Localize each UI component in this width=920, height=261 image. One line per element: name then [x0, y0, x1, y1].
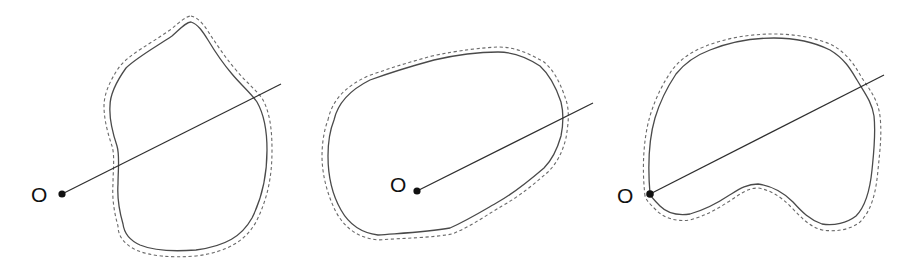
region-dashed-boundary: [104, 16, 272, 257]
panel-3: O: [617, 34, 884, 231]
origin-label: O: [617, 184, 633, 207]
origin-point: [58, 190, 65, 197]
region-boundary: [649, 38, 875, 225]
origin-label: O: [390, 173, 406, 196]
ray: [62, 84, 281, 194]
origin-point: [646, 190, 654, 198]
region-boundary: [328, 52, 563, 235]
origin-point: [413, 187, 420, 194]
panel-2: O: [322, 47, 593, 240]
diagram-figure: O O O: [0, 0, 920, 261]
ray: [417, 103, 593, 191]
region-dashed-boundary: [322, 47, 568, 240]
origin-label: O: [31, 183, 47, 206]
panel-1: O: [31, 16, 281, 257]
ray: [650, 75, 884, 194]
region-boundary: [110, 22, 267, 251]
